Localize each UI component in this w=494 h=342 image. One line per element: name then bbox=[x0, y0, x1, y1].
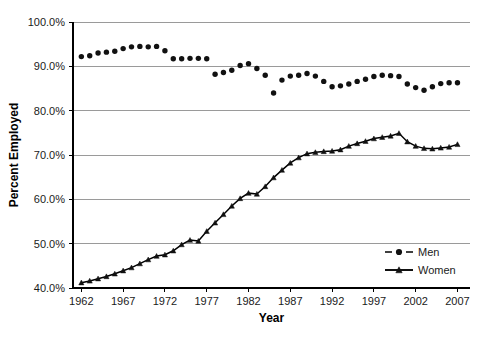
x-tick-label: 2002 bbox=[403, 295, 427, 307]
x-tick-label: 1982 bbox=[236, 295, 260, 307]
data-point-men bbox=[371, 74, 376, 79]
data-point-men bbox=[313, 73, 318, 78]
data-point-men bbox=[279, 77, 284, 82]
y-tick-label: 70.0% bbox=[34, 149, 65, 161]
x-tick-label: 1987 bbox=[278, 295, 302, 307]
data-point-men bbox=[146, 44, 151, 49]
x-tick-label: 1992 bbox=[320, 295, 344, 307]
data-point-men bbox=[95, 50, 100, 55]
x-axis-title: Year bbox=[259, 311, 285, 325]
data-point-men bbox=[162, 48, 167, 53]
data-point-men bbox=[263, 73, 268, 78]
data-point-men bbox=[246, 61, 251, 66]
data-point-men bbox=[455, 80, 460, 85]
data-point-men bbox=[87, 53, 92, 58]
chart-canvas: 40.0%50.0%60.0%70.0%80.0%90.0%100.0%1962… bbox=[0, 0, 494, 342]
data-point-men bbox=[388, 73, 393, 78]
y-tick-label: 80.0% bbox=[34, 105, 65, 117]
legend-label-men: Men bbox=[418, 246, 439, 258]
data-point-men bbox=[430, 84, 435, 89]
data-point-men bbox=[154, 44, 159, 49]
series-line-women bbox=[81, 133, 457, 282]
x-tick-label: 1997 bbox=[362, 295, 386, 307]
data-point-men bbox=[221, 70, 226, 75]
data-point-men bbox=[179, 56, 184, 61]
y-tick-label: 60.0% bbox=[34, 193, 65, 205]
data-point-men bbox=[229, 68, 234, 73]
chart-figure: 40.0%50.0%60.0%70.0%80.0%90.0%100.0%1962… bbox=[0, 0, 494, 342]
x-tick-label: 1977 bbox=[194, 295, 218, 307]
x-tick-label: 1972 bbox=[153, 295, 177, 307]
data-point-men bbox=[405, 81, 410, 86]
y-tick-label: 100.0% bbox=[28, 16, 66, 28]
data-point-men bbox=[271, 90, 276, 95]
data-point-men bbox=[438, 81, 443, 86]
y-tick-label: 90.0% bbox=[34, 60, 65, 72]
data-point-men bbox=[120, 46, 125, 51]
data-point-men bbox=[338, 83, 343, 88]
data-point-men bbox=[421, 88, 426, 93]
legend-label-women: Women bbox=[418, 264, 456, 276]
data-point-men bbox=[187, 56, 192, 61]
y-tick-label: 40.0% bbox=[34, 282, 65, 294]
data-point-men bbox=[354, 79, 359, 84]
data-point-men bbox=[237, 63, 242, 68]
data-point-men bbox=[104, 49, 109, 54]
data-point-men bbox=[129, 44, 134, 49]
data-point-men bbox=[346, 81, 351, 86]
data-point-men bbox=[380, 73, 385, 78]
data-point-men bbox=[446, 80, 451, 85]
data-point-men bbox=[321, 79, 326, 84]
data-point-men bbox=[171, 56, 176, 61]
legend-marker-men bbox=[396, 249, 402, 255]
data-point-men bbox=[363, 76, 368, 81]
x-tick-label: 2007 bbox=[445, 295, 469, 307]
data-point-men bbox=[413, 85, 418, 90]
data-point-men bbox=[196, 56, 201, 61]
data-point-men bbox=[288, 73, 293, 78]
data-point-men bbox=[79, 54, 84, 59]
data-point-men bbox=[329, 84, 334, 89]
y-tick-label: 50.0% bbox=[34, 238, 65, 250]
data-point-men bbox=[112, 49, 117, 54]
data-point-men bbox=[296, 73, 301, 78]
data-point-men bbox=[304, 71, 309, 76]
data-point-men bbox=[254, 66, 259, 71]
data-point-men bbox=[212, 72, 217, 77]
x-tick-label: 1962 bbox=[69, 295, 93, 307]
data-point-men bbox=[204, 56, 209, 61]
y-axis-title: Percent Employed bbox=[7, 103, 21, 208]
data-point-men bbox=[137, 44, 142, 49]
x-tick-label: 1967 bbox=[111, 295, 135, 307]
data-point-men bbox=[396, 74, 401, 79]
